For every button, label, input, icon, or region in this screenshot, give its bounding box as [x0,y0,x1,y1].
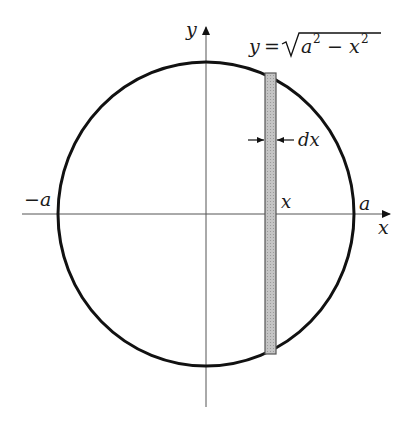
equation-a: a [301,35,312,57]
pos-a-label: a [359,192,370,214]
neg-a-label: −a [24,188,51,210]
equation-exp1: 2 [313,32,321,46]
x-axis-label: x [378,216,389,238]
equation-x: x [349,35,360,57]
strip-x-label: x [281,191,291,212]
y-axis-label: y [185,18,197,40]
equation-equals: = [264,35,280,57]
diagram-svg: y x −a a x dx y = a 2 − x 2 [0,0,411,422]
equation-lhs: y [248,35,260,57]
equation: y = a 2 − x 2 [248,32,381,57]
equation-exp2: 2 [361,32,369,46]
strip-rectangle [265,73,276,354]
equation-minus: − [327,35,343,57]
diagram-canvas: y x −a a x dx y = a 2 − x 2 [0,0,411,422]
dx-label: dx [298,129,320,150]
